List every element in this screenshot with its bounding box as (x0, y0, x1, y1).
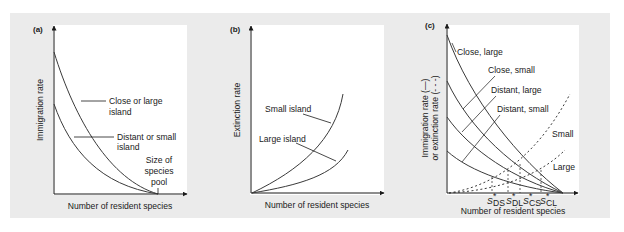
small-island-leader (303, 114, 331, 123)
panel-a-label: (a) (33, 25, 43, 34)
large-island-label: Large island (259, 134, 306, 144)
equilibrium-dl-label: S * DL (506, 191, 523, 208)
distant-large-label: Distant, large (491, 85, 542, 95)
distant-small-immigration-curve (447, 151, 563, 193)
close-large-label: Close, large (457, 47, 503, 57)
close-or-large-label: Close or large (109, 96, 163, 106)
panel-a-y-label: Immigration rate (35, 79, 45, 141)
distant-small-label: Distant, small (497, 104, 549, 114)
distant-or-small-immigration-curve (54, 104, 158, 194)
equilibrium-ds-label: S * DS (487, 191, 505, 208)
panel-b-y-label: Extinction rate (232, 83, 242, 138)
panel-c-y-label-1: Immigration rate (—) (420, 78, 430, 157)
equilibrium-cs-label: S * CS (523, 191, 541, 208)
distant-or-small-label: Distant or small (117, 132, 176, 142)
species-pool-label-2: species (144, 166, 173, 176)
species-pool-label-1: Size of (146, 155, 173, 165)
large-island-extinction-curve (252, 150, 348, 193)
close-or-large-immigration-curve (54, 52, 158, 194)
distant-or-small-label-2: island (117, 142, 140, 152)
panel-a-x-label: Number of resident species (68, 201, 173, 211)
distant-small-leader (462, 115, 500, 162)
eq-dl-sub: DL (512, 198, 523, 208)
panel-b-label: (b) (230, 25, 241, 34)
panel-b: (b) Extinction rate Number of resident s… (230, 25, 384, 210)
panel-c: (c) Immigration rate (—) or extinction r… (420, 21, 578, 216)
island-biogeography-figure: (a) Immigration rate Number of resident … (0, 0, 624, 232)
close-or-large-label-2: island (109, 107, 132, 117)
close-small-label: Close, small (488, 65, 535, 75)
panel-b-x-label: Number of resident species (265, 200, 370, 210)
panel-a: (a) Immigration rate Number of resident … (33, 25, 187, 211)
eq-cl-sub: CL (546, 198, 557, 208)
panel-c-label: (c) (425, 21, 435, 30)
small-island-label: Small island (265, 104, 312, 114)
equilibrium-cl-label: S * CL (540, 191, 557, 208)
large-extinction-label: Large (553, 162, 575, 172)
eq-ds-sub: DS (493, 198, 505, 208)
close-large-immigration-curve (447, 35, 563, 193)
small-extinction-label: Small (552, 129, 574, 139)
species-pool-label-3: pool (151, 177, 167, 187)
panel-c-y-label-2: or extinction rate (- - -) (430, 75, 440, 160)
large-island-leader (296, 143, 336, 161)
